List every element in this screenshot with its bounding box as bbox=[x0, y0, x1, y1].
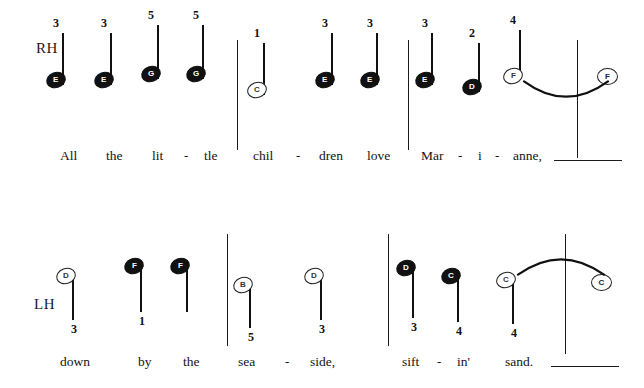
tie-slur bbox=[524, 78, 608, 100]
lyric-syllable: the bbox=[183, 354, 200, 370]
lyric-syllable: lit bbox=[152, 148, 163, 164]
notehead-c: C bbox=[439, 265, 463, 287]
lyric-syllable: sand. bbox=[505, 354, 533, 370]
fingering-number: 1 bbox=[139, 314, 145, 329]
lyric-syllable: the bbox=[106, 148, 123, 164]
notehead-d: D bbox=[54, 265, 78, 287]
barline bbox=[565, 234, 566, 354]
lyric-syllable: dren bbox=[319, 148, 343, 164]
lyric-syllable: in' bbox=[457, 354, 470, 370]
hand-label-rh: RH bbox=[36, 40, 58, 57]
notehead-letter: E bbox=[422, 76, 427, 84]
lyric-syllable: down bbox=[60, 354, 90, 370]
lyric-syllable: sea bbox=[238, 354, 255, 370]
barline bbox=[237, 40, 238, 150]
notehead-letter: F bbox=[178, 262, 183, 270]
notehead-letter: C bbox=[503, 276, 509, 284]
notehead-f: F bbox=[168, 255, 192, 277]
note-stem bbox=[186, 266, 188, 312]
notehead-c: C bbox=[245, 79, 269, 101]
lyric-syllable: sift bbox=[402, 354, 419, 370]
notehead-letter: C bbox=[599, 279, 605, 287]
notehead-d: D bbox=[302, 265, 326, 287]
notehead-g: G bbox=[139, 63, 163, 85]
fingering-number: 2 bbox=[469, 26, 475, 41]
notehead-d: D bbox=[460, 76, 484, 98]
system-left-hand: LH D3F1FB5D3D3C4C4C downbythesea-side,si… bbox=[0, 194, 644, 388]
lyric-hyphen: - bbox=[285, 354, 289, 370]
barline bbox=[388, 234, 389, 346]
notehead-letter: F bbox=[511, 72, 516, 80]
lyric-hyphen: - bbox=[437, 354, 441, 370]
notehead-letter: D bbox=[63, 272, 69, 280]
fingering-number: 3 bbox=[367, 16, 373, 31]
note-stem bbox=[457, 276, 459, 322]
fingering-number: 5 bbox=[248, 330, 254, 345]
notehead-g: G bbox=[184, 63, 208, 85]
notehead-letter: E bbox=[101, 76, 106, 84]
lyric-syllable: anne, bbox=[513, 148, 542, 164]
notehead-e: E bbox=[92, 69, 116, 91]
lyric-syllable: by bbox=[138, 354, 152, 370]
barline bbox=[227, 234, 228, 346]
fingering-number: 3 bbox=[411, 320, 417, 335]
lyric-syllable: chil bbox=[253, 148, 273, 164]
notehead-e: E bbox=[358, 69, 382, 91]
lyric-syllable: side, bbox=[310, 354, 335, 370]
notehead-letter: C bbox=[448, 272, 454, 280]
notehead-e: E bbox=[413, 69, 437, 91]
fingering-number: 1 bbox=[254, 26, 260, 41]
notehead-f: F bbox=[122, 255, 146, 277]
fingering-number: 5 bbox=[148, 8, 154, 23]
lyric-hyphen: - bbox=[296, 148, 300, 164]
notehead-letter: G bbox=[148, 70, 154, 78]
lyric-hyphen: - bbox=[495, 148, 499, 164]
notehead-e: E bbox=[313, 69, 337, 91]
fingering-number: 4 bbox=[510, 13, 516, 28]
notehead-letter: E bbox=[53, 76, 58, 84]
fingering-number: 3 bbox=[422, 16, 428, 31]
lyric-extender-line bbox=[551, 366, 619, 367]
notehead-b: B bbox=[231, 274, 255, 296]
fingering-number: 5 bbox=[193, 8, 199, 23]
note-stem bbox=[412, 268, 414, 318]
notehead-letter: D bbox=[403, 264, 409, 272]
fingering-number: 3 bbox=[53, 16, 59, 31]
notehead-letter: G bbox=[193, 70, 199, 78]
notehead-f: F bbox=[501, 65, 525, 87]
lyric-syllable: All bbox=[60, 148, 77, 164]
fingering-number: 4 bbox=[456, 324, 462, 339]
notehead-letter: B bbox=[240, 281, 246, 289]
fingering-number: 3 bbox=[71, 322, 77, 337]
system-right-hand: RH E3E3G5G5C1E3E3E3D2F4F Allthelit-tlech… bbox=[0, 0, 644, 194]
notehead-letter: F bbox=[132, 262, 137, 270]
lyric-syllable: i bbox=[478, 148, 482, 164]
notehead-letter: E bbox=[322, 76, 327, 84]
notehead-e: E bbox=[44, 69, 68, 91]
notehead-letter: E bbox=[367, 76, 372, 84]
lyric-hyphen: - bbox=[458, 148, 462, 164]
fingering-number: 3 bbox=[101, 16, 107, 31]
fingering-number: 3 bbox=[322, 16, 328, 31]
lyric-hyphen: - bbox=[184, 148, 188, 164]
notehead-c: C bbox=[494, 269, 518, 291]
fingering-number: 3 bbox=[319, 322, 325, 337]
barline bbox=[408, 40, 409, 150]
fingering-number: 4 bbox=[511, 326, 517, 341]
hand-label-lh: LH bbox=[34, 296, 55, 313]
lyric-syllable: love bbox=[367, 148, 390, 164]
tie-slur bbox=[518, 256, 604, 278]
lyric-extender-line bbox=[554, 160, 622, 161]
note-stem bbox=[140, 266, 142, 312]
notehead-letter: D bbox=[311, 272, 317, 280]
lyric-syllable: tle bbox=[204, 148, 218, 164]
lyric-syllable: Mar bbox=[421, 148, 444, 164]
sheet-music-page: RH E3E3G5G5C1E3E3E3D2F4F Allthelit-tlech… bbox=[0, 0, 644, 388]
notehead-letter: D bbox=[469, 83, 475, 91]
notehead-d: D bbox=[394, 257, 418, 279]
notehead-letter: C bbox=[254, 86, 260, 94]
